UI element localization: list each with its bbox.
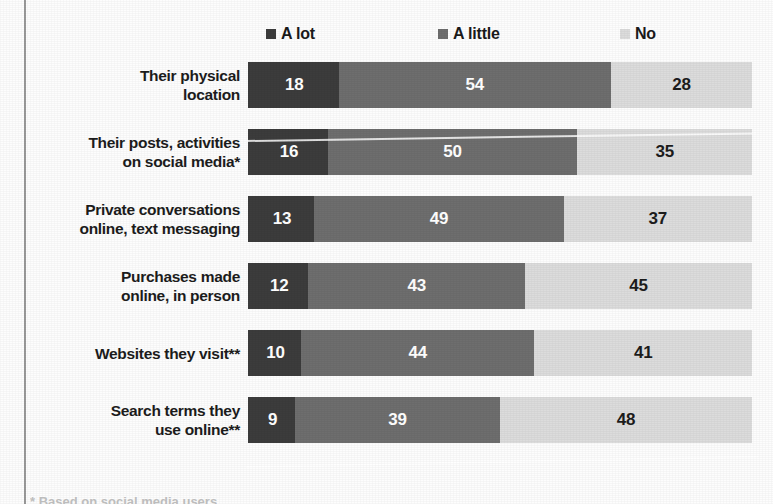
stacked-bar: 93948: [248, 397, 752, 443]
category-label: Their posts, activitieson social media*: [28, 133, 240, 171]
bar-segment-a-lot[interactable]: 9: [248, 397, 295, 443]
bar-segment-no[interactable]: 45: [525, 263, 752, 309]
bar-segment-no[interactable]: 35: [577, 129, 752, 175]
chart-row: Their physicallocation185428: [0, 62, 773, 108]
bar-segment-a-little[interactable]: 39: [295, 397, 500, 443]
bar-segment-no[interactable]: 48: [500, 397, 752, 443]
bar-segment-a-little[interactable]: 43: [308, 263, 525, 309]
bar-segment-value: 39: [388, 410, 407, 430]
bar-segment-a-lot[interactable]: 13: [248, 196, 314, 242]
bar-segment-no[interactable]: 37: [564, 196, 752, 242]
square-swatch-icon: [266, 29, 276, 39]
category-label: Search terms theyuse online**: [28, 401, 240, 439]
legend-label: A lot: [281, 25, 315, 43]
category-label: Private conversationsonline, text messag…: [28, 200, 240, 238]
chart-figure: A lot A little No Their physicallocation…: [0, 0, 773, 504]
chart-row: Purchases madeonline, in person124345: [0, 263, 773, 309]
bar-segment-a-lot[interactable]: 16: [248, 129, 328, 175]
square-swatch-icon: [438, 29, 448, 39]
category-label: Purchases madeonline, in person: [28, 267, 240, 305]
bar-segment-value: 37: [649, 209, 668, 229]
bar-segment-a-lot[interactable]: 10: [248, 330, 301, 376]
bar-segment-a-lot[interactable]: 12: [248, 263, 308, 309]
chart-row: Their posts, activitieson social media*1…: [0, 129, 773, 175]
bar-segment-value: 18: [285, 75, 304, 95]
legend-label: No: [635, 25, 656, 43]
bar-segment-a-little[interactable]: 49: [314, 196, 563, 242]
chart-legend: A lot A little No: [248, 25, 752, 49]
bar-segment-no[interactable]: 41: [534, 330, 752, 376]
bar-segment-value: 44: [409, 343, 428, 363]
bar-segment-a-little[interactable]: 54: [339, 62, 611, 108]
stacked-bar: 104441: [248, 330, 752, 376]
chart-footnote: * Based on social media users: [30, 494, 217, 504]
stacked-bar: 185428: [248, 62, 752, 108]
category-label: Their physicallocation: [28, 66, 240, 104]
bar-segment-a-lot[interactable]: 18: [248, 62, 339, 108]
chart-row: Search terms theyuse online**93948: [0, 397, 773, 443]
stacked-bar: 134937: [248, 196, 752, 242]
bar-segment-value: 54: [466, 75, 485, 95]
chart-row: Websites they visit**104441: [0, 330, 773, 376]
chart-row: Private conversationsonline, text messag…: [0, 196, 773, 242]
bar-segment-value: 35: [655, 142, 674, 162]
bar-segment-value: 13: [273, 209, 292, 229]
legend-item-a-little[interactable]: A little: [438, 25, 500, 43]
bar-segment-value: 45: [629, 276, 648, 296]
chart-plot-area: Their physicallocation185428Their posts,…: [0, 56, 773, 486]
bar-segment-value: 50: [443, 142, 462, 162]
bar-segment-value: 41: [634, 343, 653, 363]
bar-segment-value: 16: [280, 142, 299, 162]
stacked-bar: 165035: [248, 129, 752, 175]
bar-segment-a-little[interactable]: 50: [328, 129, 578, 175]
bar-segment-no[interactable]: 28: [611, 62, 752, 108]
legend-item-a-lot[interactable]: A lot: [266, 25, 315, 43]
bar-segment-a-little[interactable]: 44: [301, 330, 534, 376]
square-swatch-icon: [620, 29, 630, 39]
bar-segment-value: 9: [268, 410, 277, 430]
bar-segment-value: 48: [617, 410, 636, 430]
stacked-bar: 124345: [248, 263, 752, 309]
bar-segment-value: 10: [266, 343, 285, 363]
bar-segment-value: 28: [672, 75, 691, 95]
category-label: Websites they visit**: [28, 344, 240, 363]
bar-segment-value: 12: [270, 276, 289, 296]
legend-item-no[interactable]: No: [620, 25, 656, 43]
legend-label: A little: [453, 25, 500, 43]
bar-segment-value: 43: [408, 276, 427, 296]
bar-segment-value: 49: [430, 209, 449, 229]
